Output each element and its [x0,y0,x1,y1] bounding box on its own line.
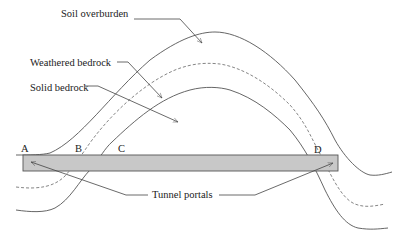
label-tunnel-portals: Tunnel portals [152,189,213,200]
label-weathered-bedrock: Weathered bedrock [30,57,112,68]
tunnel-geology-diagram: Soil overburden Weathered bedrock Solid … [0,0,410,239]
label-soil-overburden: Soil overburden [61,8,129,19]
leader-weathered-bedrock [117,62,162,98]
point-label-d: D [314,144,322,155]
label-solid-bedrock: Solid bedrock [30,82,89,93]
tunnel-body [23,155,338,171]
leader-solid-bedrock [85,86,178,122]
point-label-c: C [118,143,125,154]
leader-soil-overburden [134,19,202,43]
ground-surface-line [16,32,392,175]
point-label-a: A [21,143,29,154]
point-label-b: B [75,143,82,154]
